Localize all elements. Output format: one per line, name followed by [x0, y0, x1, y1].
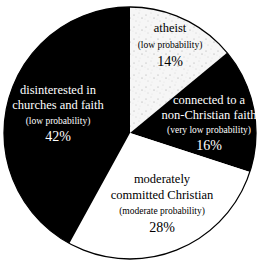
label-nonchristian-line1: connected to a — [173, 93, 246, 107]
label-disinterested-pct: 42% — [45, 129, 71, 144]
label-moderate-note: (moderate probability) — [119, 206, 205, 217]
label-moderate-line1: moderately — [134, 172, 191, 186]
label-nonchristian-note: (very low probability) — [167, 125, 251, 136]
label-nonchristian-line2: non-Christian faith — [162, 108, 258, 122]
label-nonchristian-pct: 16% — [196, 138, 222, 153]
label-atheist-title: atheist — [154, 21, 187, 35]
pie-chart: atheist (low probability) 14% connected … — [0, 0, 264, 277]
label-disinterested-line1: disinterested in — [20, 83, 97, 97]
label-atheist-pct: 14% — [157, 54, 183, 69]
label-disinterested-note: (low probability) — [26, 116, 91, 127]
label-moderate-line2: committed Christian — [111, 188, 214, 202]
label-moderate-pct: 28% — [149, 220, 175, 235]
label-atheist-note: (low probability) — [138, 40, 203, 51]
label-disinterested-line2: churches and faith — [12, 98, 104, 112]
